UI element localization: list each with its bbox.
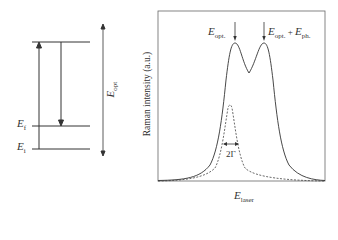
peak2-label-main: E bbox=[268, 25, 275, 37]
width-arrowhead-right-icon bbox=[235, 142, 239, 146]
initial-level-label-sub: i bbox=[24, 147, 26, 155]
x-axis-label-main: E bbox=[234, 189, 241, 201]
peak2-label: Eopt. + Eph. bbox=[268, 25, 311, 40]
eopt-arrowhead-bottom-icon bbox=[101, 151, 105, 156]
initial-level-label-main: E bbox=[17, 140, 24, 152]
peak1-label: Eopt. bbox=[208, 25, 225, 40]
absorption-arrowhead-icon bbox=[37, 42, 42, 48]
x-axis-label: Elaser bbox=[234, 189, 254, 204]
peak2-arrowhead-icon bbox=[262, 36, 265, 41]
eopt-span-label: Eopt bbox=[104, 82, 119, 98]
emission-arrowhead-icon bbox=[59, 120, 64, 126]
energy-level-diagram bbox=[32, 24, 105, 156]
peak2-label-sub2: ph. bbox=[302, 32, 311, 40]
raman-solid-curve bbox=[158, 43, 325, 181]
x-axis-label-sub: laser bbox=[241, 196, 254, 204]
initial-level-label: Ei bbox=[17, 140, 26, 155]
raman-dashed-curve bbox=[158, 105, 325, 181]
peak2-label-sub: opt. bbox=[275, 32, 286, 40]
y-axis-label: Raman intensity (a.u.) bbox=[142, 39, 152, 149]
peak1-label-main: E bbox=[208, 25, 215, 37]
width-arrowhead-left-icon bbox=[223, 142, 227, 146]
final-level-label-sub: f bbox=[24, 124, 26, 132]
peak1-arrowhead-icon bbox=[233, 36, 236, 41]
final-level-label: Ef bbox=[17, 117, 26, 132]
eopt-label-main: E bbox=[104, 91, 116, 98]
eopt-label-sub: opt bbox=[111, 82, 119, 91]
peak2-label-main2: E bbox=[295, 25, 302, 37]
width-label: 2Γ bbox=[226, 149, 236, 159]
final-level-label-main: E bbox=[17, 117, 24, 129]
peak1-label-sub: opt. bbox=[215, 32, 226, 40]
eopt-arrowhead-top-icon bbox=[101, 24, 105, 29]
peak2-label-plus: + bbox=[285, 27, 295, 37]
